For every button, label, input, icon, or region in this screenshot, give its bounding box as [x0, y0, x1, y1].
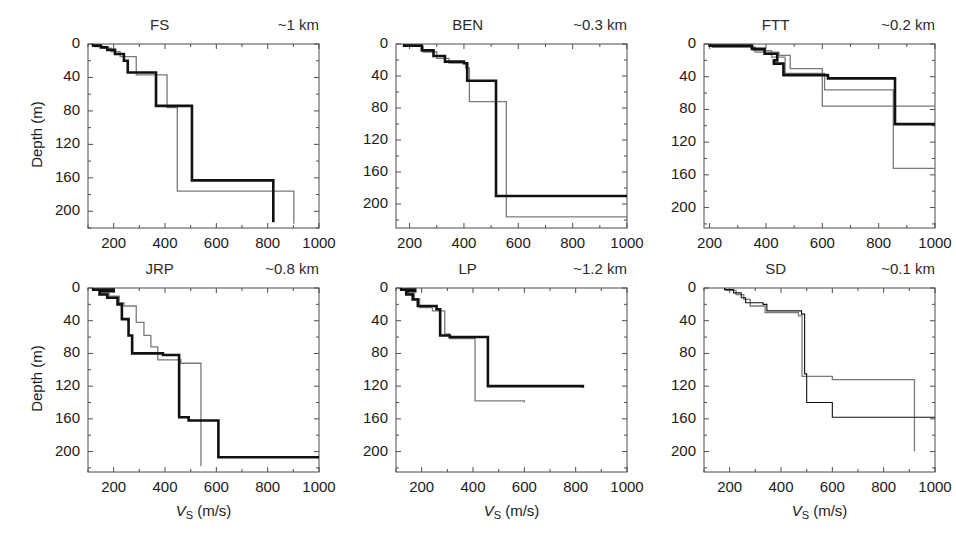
y-tick-label: 0 [648, 34, 696, 51]
x-tick-label: 1000 [289, 478, 349, 495]
y-tick-label: 40 [340, 66, 388, 83]
x-axis-label-symbol: V [484, 502, 494, 519]
x-tick-label: 800 [854, 478, 914, 495]
y-tick-label: 80 [340, 98, 388, 115]
x-tick-label: 600 [494, 478, 554, 495]
profile-panel-ftt: FTT~0.2 km040801201602002004006008001000 [0, 0, 956, 545]
panel-title: JRP [88, 260, 231, 277]
y-tick-label: 160 [32, 409, 80, 426]
y-tick-label: 200 [32, 442, 80, 459]
plot-area [0, 0, 956, 545]
panel-title: FS [88, 16, 231, 33]
profile-panel-fs: FS~1 km04080120160200Depth (m)2004006008… [0, 0, 956, 545]
x-axis-label: VS (m/s) [88, 502, 319, 521]
x-tick-label: 600 [802, 478, 862, 495]
panel-distance-annotation: ~1 km [207, 16, 319, 33]
x-tick-label: 600 [792, 234, 852, 251]
plot-area [0, 0, 956, 545]
axis-frame [704, 44, 935, 228]
x-axis-label-subscript: S [186, 509, 193, 521]
y-tick-label: 200 [340, 194, 388, 211]
axis-frame [88, 44, 319, 228]
y-tick-label: 40 [32, 311, 80, 328]
velocity-profile-line [404, 44, 627, 196]
x-tick-label: 400 [135, 234, 195, 251]
x-tick-label: 800 [238, 478, 298, 495]
y-tick-label: 200 [648, 442, 696, 459]
y-tick-label: 0 [648, 278, 696, 295]
x-axis-label-units: (m/s) [501, 502, 539, 519]
velocity-profile-line [712, 44, 935, 106]
y-tick-label: 160 [340, 409, 388, 426]
y-tick-label: 120 [340, 376, 388, 393]
y-tick-label: 160 [340, 162, 388, 179]
x-tick-label: 1000 [597, 478, 657, 495]
y-tick-label: 160 [648, 165, 696, 182]
y-tick-label: 200 [32, 201, 80, 218]
y-tick-label: 120 [648, 132, 696, 149]
y-tick-label: 120 [340, 130, 388, 147]
velocity-profile-line [93, 44, 273, 222]
y-tick-label: 160 [32, 168, 80, 185]
x-tick-label: 600 [488, 234, 548, 251]
x-axis-label-subscript: S [494, 509, 501, 521]
y-axis-label: Depth (m) [28, 319, 45, 439]
y-tick-label: 200 [340, 442, 388, 459]
velocity-profile-line [406, 44, 627, 217]
x-tick-label: 200 [700, 478, 760, 495]
y-tick-label: 0 [32, 278, 80, 295]
velocity-profile-figure: FS~1 km04080120160200Depth (m)2004006008… [0, 0, 956, 545]
velocity-profile-line [710, 44, 935, 124]
x-axis-label-symbol: V [176, 502, 186, 519]
panel-distance-annotation: ~0.1 km [823, 260, 935, 277]
x-axis-label: VS (m/s) [704, 502, 935, 521]
panel-distance-annotation: ~1.2 km [515, 260, 627, 277]
y-tick-label: 80 [32, 343, 80, 360]
x-tick-label: 800 [238, 234, 298, 251]
panel-distance-annotation: ~0.2 km [823, 16, 935, 33]
x-tick-label: 400 [443, 478, 503, 495]
panel-distance-annotation: ~0.8 km [207, 260, 319, 277]
velocity-profile-line [401, 288, 583, 388]
axis-frame [88, 288, 319, 472]
y-tick-label: 120 [648, 376, 696, 393]
y-tick-label: 80 [648, 343, 696, 360]
x-tick-label: 400 [434, 234, 494, 251]
x-axis-label-symbol: V [792, 502, 802, 519]
y-tick-label: 120 [32, 376, 80, 393]
x-tick-label: 400 [751, 478, 811, 495]
velocity-profile-line [94, 44, 293, 224]
plot-area [0, 0, 956, 545]
velocity-profile-line [725, 288, 935, 417]
x-tick-label: 800 [849, 234, 909, 251]
profile-panel-ben: BEN~0.3 km040801201602002004006008001000 [0, 0, 956, 545]
axis-frame [704, 288, 935, 472]
y-tick-label: 160 [648, 409, 696, 426]
x-tick-label: 800 [546, 478, 606, 495]
x-tick-label: 1000 [905, 234, 956, 251]
x-tick-label: 1000 [289, 234, 349, 251]
panel-title: SD [704, 260, 847, 277]
x-tick-label: 200 [680, 234, 740, 251]
y-tick-label: 120 [32, 134, 80, 151]
axis-frame [396, 288, 627, 472]
profile-panel-jrp: JRP~0.8 km04080120160200Depth (m)2004006… [0, 0, 956, 545]
x-axis-label-units: (m/s) [193, 502, 231, 519]
y-tick-label: 40 [340, 311, 388, 328]
plot-area [0, 0, 956, 545]
x-axis-label: VS (m/s) [396, 502, 627, 521]
x-tick-label: 200 [380, 234, 440, 251]
x-axis-label-units: (m/s) [809, 502, 847, 519]
panel-title: LP [396, 260, 539, 277]
x-tick-label: 200 [392, 478, 452, 495]
x-tick-label: 200 [84, 234, 144, 251]
panel-distance-annotation: ~0.3 km [515, 16, 627, 33]
y-tick-label: 0 [32, 34, 80, 51]
velocity-profile-line [402, 288, 525, 402]
x-tick-label: 400 [736, 234, 796, 251]
y-tick-label: 40 [648, 311, 696, 328]
x-tick-label: 600 [186, 234, 246, 251]
x-tick-label: 600 [186, 478, 246, 495]
y-tick-label: 80 [340, 343, 388, 360]
velocity-profile-line [94, 288, 201, 466]
